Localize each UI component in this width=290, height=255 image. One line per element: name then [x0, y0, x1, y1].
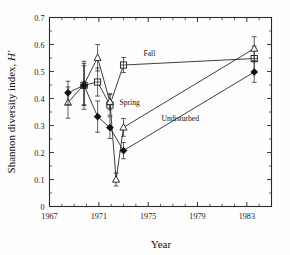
y-tick-label: 0.7 — [34, 14, 44, 23]
y-axis-title: Shannon diversity index, H′ — [5, 50, 17, 173]
series-undisturbed — [65, 61, 258, 158]
shannon-diversity-chart: 00.10.20.30.40.50.60.7 19671971197519791… — [0, 0, 290, 255]
x-axis-tick-labels: 19671971197519791983 — [41, 212, 255, 221]
data-point — [251, 45, 258, 51]
y-axis-ticks — [50, 18, 272, 207]
marker-open-triangle — [251, 45, 258, 51]
y-tick-label: 0.6 — [34, 41, 44, 50]
plot-frame — [50, 18, 272, 207]
data-point — [94, 54, 101, 60]
data-point — [251, 69, 258, 76]
series-spring — [64, 37, 257, 186]
x-tick-label: 1975 — [140, 212, 156, 221]
series-fall — [81, 46, 257, 115]
data-series-layer — [64, 37, 257, 186]
marker-filled-diamond — [251, 69, 258, 76]
x-tick-label: 1967 — [41, 212, 57, 221]
y-tick-label: 0.3 — [34, 122, 44, 131]
data-point — [120, 62, 126, 68]
figure-container: 00.10.20.30.40.50.60.7 19671971197519791… — [0, 0, 290, 255]
marker-open-triangle — [120, 124, 127, 130]
x-axis-title: Year — [151, 238, 172, 250]
y-tick-label: 0.2 — [34, 149, 44, 158]
data-point — [65, 89, 72, 96]
svg-text:Year: Year — [151, 238, 172, 250]
y-axis-tick-labels: 00.10.20.30.40.50.60.7 — [34, 14, 44, 212]
marker-open-triangle — [94, 54, 101, 60]
chart-annotations: FallSpringUndisturbed — [120, 49, 200, 123]
x-axis-ticks — [50, 18, 272, 207]
y-title-symbol: H′ — [5, 50, 17, 62]
marker-open-triangle — [113, 176, 120, 182]
svg-text:Shannon diversity index, H′: Shannon diversity index, H′ — [5, 50, 17, 173]
y-tick-label: 0 — [40, 203, 44, 212]
data-point — [120, 124, 127, 130]
data-point — [120, 147, 127, 154]
x-tick-label: 1983 — [239, 212, 255, 221]
y-title-text: Shannon diversity index, — [5, 61, 17, 173]
marker-filled-diamond — [120, 147, 127, 154]
annotation-label: Spring — [120, 98, 140, 107]
data-point — [95, 79, 101, 85]
marker-filled-diamond — [65, 89, 72, 96]
x-tick-label: 1979 — [189, 212, 205, 221]
y-tick-label: 0.1 — [34, 176, 44, 185]
annotation-label: Fall — [143, 49, 155, 58]
y-tick-label: 0.4 — [34, 95, 44, 104]
x-tick-label: 1971 — [91, 212, 107, 221]
data-point — [113, 176, 120, 182]
annotation-label: Undisturbed — [161, 114, 199, 123]
y-tick-label: 0.5 — [34, 68, 44, 77]
